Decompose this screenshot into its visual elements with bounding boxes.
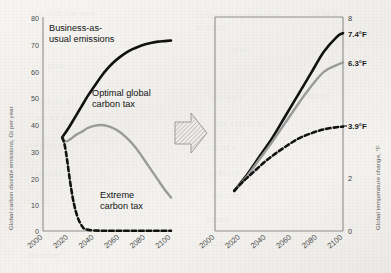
right-x-ticks: 2000 2020 2040 2060 2080 2100: [198, 233, 345, 251]
right-xtick-2000: 2000: [198, 233, 217, 251]
right-y-axis-label: Global temperature change, °F: [374, 145, 381, 230]
figure-canvas: an from the an eto the atmosphere thatld…: [0, 0, 391, 273]
right-xtick-2100: 2100: [326, 233, 345, 251]
right-xtick-2080: 2080: [300, 233, 319, 251]
right-chart-series: [234, 33, 343, 191]
right-ytick-2: 2: [348, 174, 352, 183]
right-axis-frame: [215, 17, 343, 231]
right-chart: Global temperature change, °F 8 2 0 7.4°…: [0, 0, 391, 273]
series-line: [234, 127, 343, 191]
series-line: [234, 62, 343, 190]
right-ytick-8: 8: [348, 14, 352, 23]
right-xtick-2020: 2020: [223, 233, 242, 251]
right-xtick-2040: 2040: [249, 233, 268, 251]
value-label-optimal: 6.3°F: [348, 59, 367, 68]
value-label-bau: 7.4°F: [348, 30, 367, 39]
right-xtick-2060: 2060: [274, 233, 293, 251]
right-y-ticks: 8 2 0 7.4°F 6.3°F 3.9°F: [343, 14, 367, 236]
value-label-extreme: 3.9°F: [348, 122, 367, 131]
right-ytick-0: 0: [348, 227, 352, 236]
series-line: [234, 33, 343, 191]
